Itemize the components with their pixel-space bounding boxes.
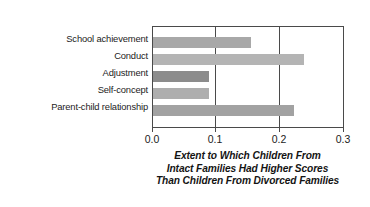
tick-mark-1 [215,128,216,132]
bar-self-concept [153,88,209,99]
plot-area [152,26,344,128]
category-label-school-achievement: School achievement [8,33,148,44]
tick-mark-2 [279,128,280,132]
category-label-parent-child-relationship: Parent-child relationship [8,101,148,112]
caption-line-2: Intact Families Had Higher Scores [140,163,355,176]
tick-mark-0 [152,128,153,132]
bar-adjustment [153,71,209,82]
category-label-adjustment: Adjustment [8,67,148,78]
x-axis: 0.0 0.1 0.2 0.3 [152,128,344,148]
tick-label-0: 0.0 [132,133,172,145]
x-axis-caption: Extent to Which Children From Intact Fam… [140,150,355,188]
bars-group [153,27,343,127]
tick-mark-3 [343,128,344,132]
bar-school-achievement [153,37,251,48]
category-label-self-concept: Self-concept [8,84,148,95]
bar-chart-figure: School achievement Conduct Adjustment Se… [0,0,370,207]
tick-label-1: 0.1 [195,133,235,145]
category-label-conduct: Conduct [8,50,148,61]
bar-parent-child-relationship [153,105,294,116]
caption-line-1: Extent to Which Children From [140,150,355,163]
tick-label-3: 0.3 [323,133,363,145]
caption-line-3: Than Children From Divorced Families [140,175,355,188]
bar-conduct [153,54,304,65]
tick-label-2: 0.2 [259,133,299,145]
category-axis-labels: School achievement Conduct Adjustment Se… [8,33,148,121]
